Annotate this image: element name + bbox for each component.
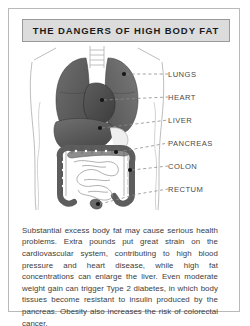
organ-label-text: COLON — [168, 162, 197, 171]
organ-label-pancreas: PANCREAS — [168, 132, 240, 155]
small-intestine-icon — [74, 161, 118, 200]
page-title: THE DANGERS OF HIGH BODY FAT — [33, 25, 219, 36]
organ-label-text: PANCREAS — [168, 139, 213, 148]
organ-label-rectum: RECTUM — [168, 178, 240, 201]
organ-label-list: LUNGS HEART LIVER PANCREAS COLON RECTUM — [168, 63, 240, 201]
trachea-icon — [90, 46, 104, 68]
heart-icon — [84, 83, 116, 124]
infographic-panel: THE DANGERS OF HIGH BODY FAT — [0, 0, 250, 326]
description-paragraph: Substantial excess body fat may cause se… — [22, 225, 218, 326]
organ-label-text: LUNGS — [168, 70, 196, 79]
panel-title-box: THE DANGERS OF HIGH BODY FAT — [22, 19, 230, 42]
organ-label-colon: COLON — [168, 155, 240, 178]
organ-label-text: LIVER — [168, 116, 192, 125]
organ-label-text: RECTUM — [168, 185, 203, 194]
organ-label-liver: LIVER — [168, 109, 240, 132]
organ-label-text: HEART — [168, 93, 196, 102]
organ-label-heart: HEART — [168, 86, 240, 109]
organ-label-lungs: LUNGS — [168, 63, 240, 86]
